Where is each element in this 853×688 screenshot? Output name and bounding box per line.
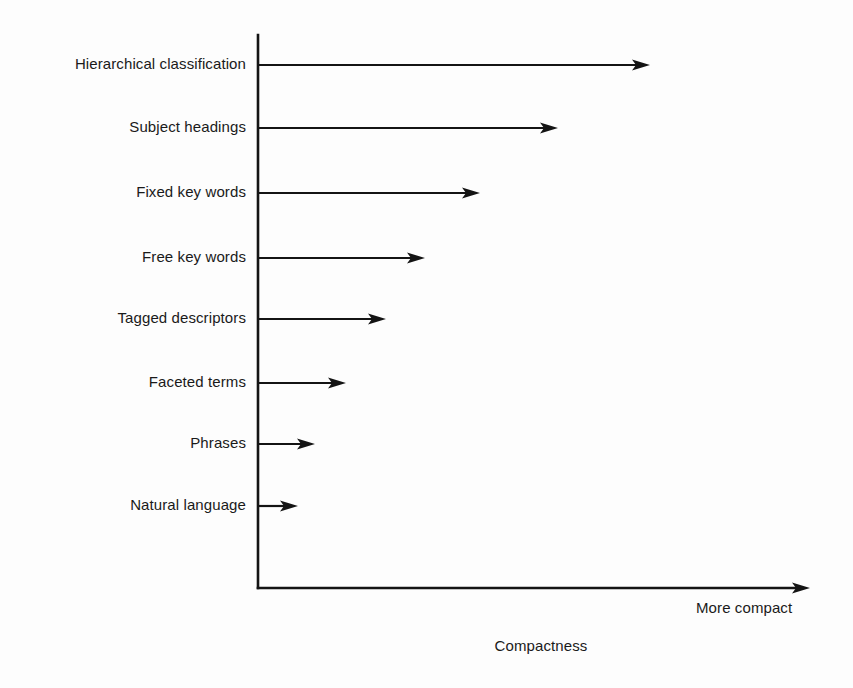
category-label: Tagged descriptors bbox=[117, 309, 246, 326]
category-label: Fixed key words bbox=[136, 183, 246, 200]
bar-row: Hierarchical classification bbox=[75, 55, 650, 72]
bar-row: Free key words bbox=[142, 248, 425, 265]
bar-row: Faceted terms bbox=[149, 373, 346, 390]
bar-row: Subject headings bbox=[129, 118, 558, 135]
x-axis-end-label: More compact bbox=[696, 599, 793, 616]
bar-row: Natural language bbox=[130, 496, 298, 513]
chart-canvas: Hierarchical classification Subject head… bbox=[0, 0, 853, 688]
category-label: Free key words bbox=[142, 248, 246, 265]
category-label: Faceted terms bbox=[149, 373, 246, 390]
bar-rows: Hierarchical classification Subject head… bbox=[75, 55, 650, 513]
category-label: Hierarchical classification bbox=[75, 55, 246, 72]
compactness-chart-figure: Hierarchical classification Subject head… bbox=[0, 0, 853, 688]
category-label: Natural language bbox=[130, 496, 246, 513]
category-label: Subject headings bbox=[129, 118, 246, 135]
bar-row: Phrases bbox=[190, 434, 315, 451]
bar-row: Fixed key words bbox=[136, 183, 480, 200]
x-axis-title: Compactness bbox=[495, 637, 588, 654]
bar-row: Tagged descriptors bbox=[117, 309, 386, 326]
category-label: Phrases bbox=[190, 434, 246, 451]
